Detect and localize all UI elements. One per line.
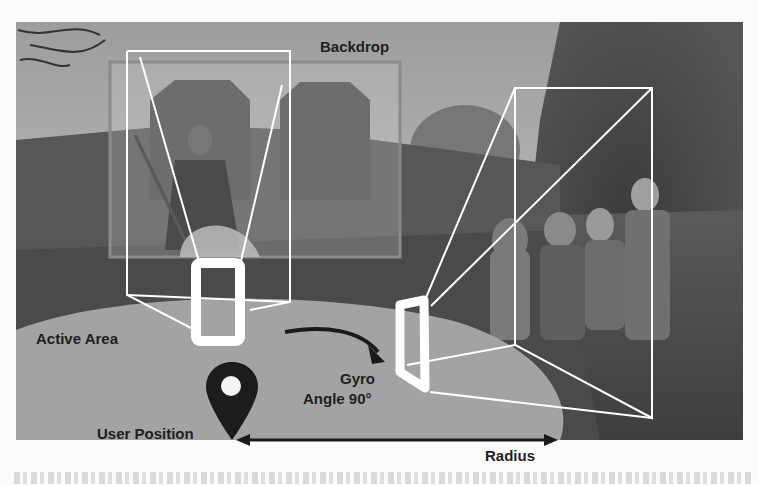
gyro-label-line2: Angle 90° [303,390,372,407]
backdrop-panel [110,62,400,257]
scene-illustration [0,0,759,485]
backdrop-label: Backdrop [320,38,389,55]
gyro-label-line1: Gyro [340,370,375,387]
radius-label: Radius [485,447,535,464]
bleed-through-text [14,472,754,484]
active-area-label: Active Area [36,330,118,347]
user-position-label: User Position [97,425,194,442]
